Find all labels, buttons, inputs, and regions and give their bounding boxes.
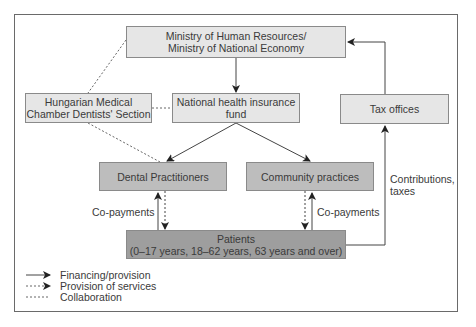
node-chamber-line2: Chamber Dentists' Section <box>27 108 151 120</box>
node-dental-label: Dental Practitioners <box>117 171 209 183</box>
node-dental-practitioners: Dental Practitioners <box>99 162 227 191</box>
node-patients-line2: (0–17 years, 18–62 years, 63 years and o… <box>130 245 342 257</box>
node-ministry: Ministry of Human Resources/ Ministry of… <box>126 26 346 58</box>
edge-label-contributions-line2: taxes <box>390 185 455 197</box>
edge-label-contributions-line1: Contributions, <box>390 173 455 185</box>
node-chamber-line1: Hungarian Medical <box>45 96 133 108</box>
node-ministry-line2: Ministry of National Economy <box>168 42 304 54</box>
node-ministry-line1: Ministry of Human Resources/ <box>166 30 307 42</box>
edge-label-contributions: Contributions, taxes <box>390 173 455 197</box>
node-chamber: Hungarian Medical Chamber Dentists' Sect… <box>25 93 152 123</box>
node-nhif-line1: National health insurance <box>177 96 296 108</box>
node-community-label: Community practices <box>261 171 359 183</box>
node-nhif-line2: fund <box>226 108 246 120</box>
edge-label-copayments-right: Co-payments <box>317 206 379 218</box>
node-patients: Patients (0–17 years, 18–62 years, 63 ye… <box>126 230 346 259</box>
node-patients-line1: Patients <box>217 233 255 245</box>
node-tax-offices: Tax offices <box>340 94 449 124</box>
node-nhif: National health insurance fund <box>172 93 300 123</box>
legend-collaboration-label: Collaboration <box>60 291 122 303</box>
edge-label-copayments-left: Co-payments <box>92 206 154 218</box>
node-tax-label: Tax offices <box>370 103 419 115</box>
node-community-practices: Community practices <box>246 162 374 191</box>
